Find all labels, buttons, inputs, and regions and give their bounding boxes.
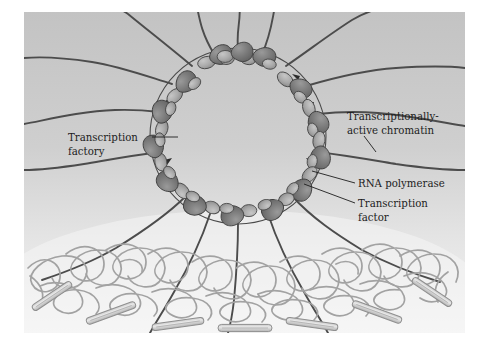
label-transcription-factory-line1: Transcription	[68, 132, 138, 143]
diagram-canvas: Transcription factory Transcriptionally-…	[0, 0, 487, 345]
transcription-factory-figure: Transcription factory Transcriptionally-…	[0, 0, 487, 345]
label-rna-polymerase: RNA polymerase	[358, 178, 445, 189]
label-transcription-factor-line2: factor	[358, 212, 389, 223]
label-active-chromatin-line2: active chromatin	[347, 125, 435, 136]
lamina-rod	[218, 324, 272, 331]
label-transcription-factor-line1: Transcription	[358, 198, 428, 209]
transcription-factor-blob	[220, 203, 234, 213]
label-transcription-factory-line2: factory	[68, 146, 105, 157]
label-active-chromatin-line1: Transcriptionally-	[347, 111, 439, 122]
